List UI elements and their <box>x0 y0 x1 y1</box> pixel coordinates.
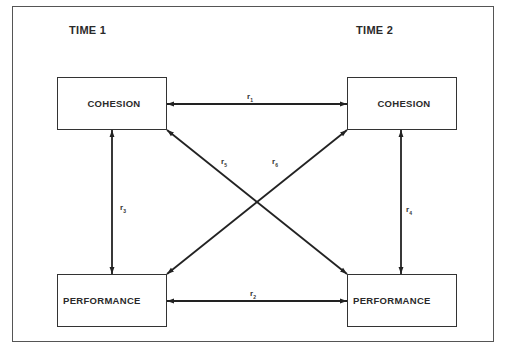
node-label: COHESION <box>377 98 430 109</box>
label-r3: r3 <box>120 203 126 214</box>
node-label: PERFORMANCE <box>353 295 431 306</box>
label-r5: r5 <box>221 157 227 168</box>
label-r6: r6 <box>272 157 278 168</box>
node-performance-time1: PERFORMANCE <box>57 274 167 327</box>
node-performance-time2: PERFORMANCE <box>347 274 457 327</box>
node-cohesion-time1: COHESION <box>57 77 167 130</box>
label-r4: r4 <box>406 205 412 216</box>
label-r1: r1 <box>247 92 253 103</box>
node-label: PERFORMANCE <box>63 295 141 306</box>
node-cohesion-time2: COHESION <box>347 77 457 130</box>
label-r2: r2 <box>250 289 256 300</box>
node-label: COHESION <box>87 98 140 109</box>
